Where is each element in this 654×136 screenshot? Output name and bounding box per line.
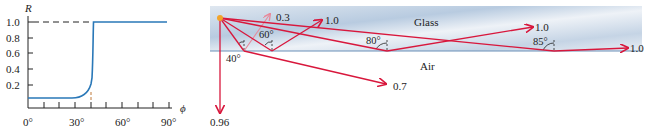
reflectance-chart: R ϕ 1.0 0.8 0.6 0.4 0.2 0° 30° 60° xyxy=(6,2,186,128)
angle-label-85: 85° xyxy=(533,36,548,47)
intensity-label-85-1.0: 1.0 xyxy=(630,42,644,54)
x-ticks xyxy=(44,102,169,108)
y-axis-label: R xyxy=(24,2,32,14)
x-axis-label: ϕ xyxy=(180,102,186,114)
glass-label: Glass xyxy=(414,16,438,28)
y-tick-0.4: 0.4 xyxy=(6,63,20,75)
y-tick-0.6: 0.6 xyxy=(6,47,20,59)
y-tick-1.0: 1.0 xyxy=(6,16,20,28)
y-ticks xyxy=(28,22,33,85)
intensity-label-0.3: 0.3 xyxy=(276,11,290,23)
y-tick-0.8: 0.8 xyxy=(6,32,20,44)
x-tick-30: 30° xyxy=(69,116,84,128)
intensity-label-0.7: 0.7 xyxy=(393,80,407,92)
figure: R ϕ 1.0 0.8 0.6 0.4 0.2 0° 30° 60° xyxy=(0,0,654,136)
air-label: Air xyxy=(420,60,435,72)
x-tick-90: 90° xyxy=(161,116,176,128)
reflectance-curve xyxy=(28,22,167,98)
angle-label-40: 40° xyxy=(226,53,241,64)
ray-diagram: Glass Air xyxy=(210,6,644,128)
y-tick-0.2: 0.2 xyxy=(6,79,20,91)
ray-40-transmitted xyxy=(244,51,386,84)
angle-label-60: 60° xyxy=(259,29,274,40)
intensity-label-0.96: 0.96 xyxy=(210,116,230,128)
intensity-label-80-1.0: 1.0 xyxy=(535,21,549,33)
x-tick-0: 0° xyxy=(23,116,33,128)
intensity-label-60-1.0: 1.0 xyxy=(325,14,339,26)
x-tick-60: 60° xyxy=(115,116,130,128)
angle-label-80: 80° xyxy=(366,35,381,46)
light-source xyxy=(217,15,223,21)
